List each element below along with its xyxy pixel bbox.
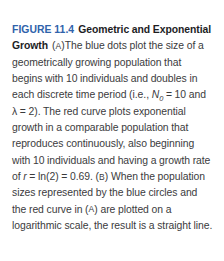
formula-n-value: = 10 and: [163, 89, 206, 100]
panel-a-inline-letter: A: [88, 204, 94, 214]
panel-a-inline-ref: A: [88, 204, 94, 215]
formula-r-value: = ln(2) = 0.69.: [27, 171, 93, 182]
figure-number-label: FIGURE 11.4: [12, 24, 74, 35]
panel-b-letter: B: [99, 172, 105, 182]
formula-n-zero: N0: [152, 89, 164, 100]
panel-a-letter: A: [55, 41, 61, 51]
figure-caption-block: FIGURE 11.4Geometric and Exponential Gro…: [0, 0, 224, 261]
panel-b-marker: (B): [96, 171, 109, 182]
figure-caption-text: FIGURE 11.4Geometric and Exponential Gro…: [12, 22, 213, 234]
panel-a-marker: (A): [52, 40, 65, 51]
formula-lambda: λ = 2).: [12, 106, 41, 117]
